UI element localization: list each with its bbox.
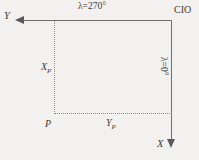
x-axis-arrowhead-icon <box>167 139 175 148</box>
yp-subscript: P <box>112 123 116 131</box>
coordinate-diagram: λ=270° CIO Y X λ=0° XP YP P <box>0 0 199 160</box>
y-axis-arrowhead-icon <box>15 16 24 24</box>
xp-coordinate-label: XP <box>41 62 51 75</box>
longitude-0-label: λ=0° <box>159 57 169 76</box>
yp-coordinate-label: YP <box>106 118 116 131</box>
y-axis-label: Y <box>4 11 10 22</box>
xp-dotted-line <box>54 21 55 114</box>
yp-dotted-line <box>54 113 172 114</box>
xp-subscript: P <box>47 67 51 75</box>
point-p-label: P <box>45 119 51 129</box>
x-axis-label: X <box>157 139 163 150</box>
longitude-270-label: λ=270° <box>78 2 106 12</box>
cio-label: CIO <box>174 5 191 15</box>
horizontal-axis-line <box>22 20 172 21</box>
vertical-axis-line <box>171 20 172 142</box>
